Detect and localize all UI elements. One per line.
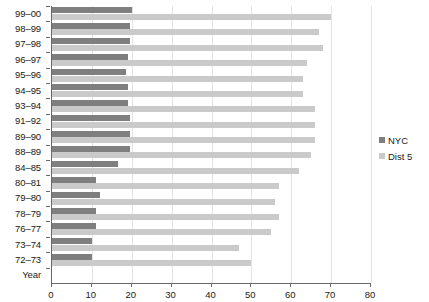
x-tick-50 <box>250 283 251 287</box>
y-tick-11 <box>46 175 50 176</box>
y-axis-label-73-74: 73–74 <box>15 239 41 250</box>
bar-dist5-91–92 <box>52 122 315 128</box>
legend-item-nyc: NYC <box>379 133 427 147</box>
y-tick-4 <box>46 68 50 69</box>
y-tick-17 <box>46 268 50 269</box>
x-tick-60 <box>290 283 291 287</box>
bar-nyc-94–95 <box>52 84 128 90</box>
y-axis-label-76-77: 76–77 <box>15 223 41 234</box>
y-tick-3 <box>46 52 50 53</box>
y-axis-label-89-90: 89–90 <box>15 131 41 142</box>
bar-nyc-78–79 <box>52 208 96 214</box>
x-tick-label-40: 40 <box>205 289 216 300</box>
y-axis-label-80-81: 80–81 <box>15 177 41 188</box>
bar-dist5-93–94 <box>52 106 315 112</box>
y-axis-label-84-85: 84–85 <box>15 162 41 173</box>
y-tick-14 <box>46 221 50 222</box>
x-tick-0 <box>51 283 52 287</box>
x-tick-label-80: 80 <box>365 289 376 300</box>
y-axis-label-98-99: 98–99 <box>15 23 41 34</box>
bar-dist5-88–89 <box>52 152 311 158</box>
y-tick-6 <box>46 98 50 99</box>
y-axis-label-97-98: 97–98 <box>15 38 41 49</box>
x-tick-20 <box>131 283 132 287</box>
bar-nyc-97–98 <box>52 38 130 44</box>
legend-label-dist5: Dist 5 <box>388 151 412 162</box>
bar-dist5-95–96 <box>52 76 303 82</box>
bar-dist5-98–99 <box>52 29 319 35</box>
bar-nyc-72–73 <box>52 254 92 260</box>
bar-nyc-79–80 <box>52 192 100 198</box>
bar-dist5-84–85 <box>52 168 299 174</box>
bar-nyc-73–74 <box>52 238 92 244</box>
y-axis-label-79-80: 79–80 <box>15 192 41 203</box>
y-axis-label-94-95: 94–95 <box>15 85 41 96</box>
bar-dist5-99–00 <box>52 14 331 20</box>
y-tick-5 <box>46 83 50 84</box>
x-tick-70 <box>330 283 331 287</box>
y-axis-label-99-00: 99–00 <box>15 8 41 19</box>
bar-dist5-89–90 <box>52 137 315 143</box>
y-axis-label-96-97: 96–97 <box>15 54 41 65</box>
bar-nyc-99–00 <box>52 7 132 13</box>
plot-area <box>51 6 371 283</box>
bar-dist5-72–73 <box>52 260 251 266</box>
y-tick-1 <box>46 21 50 22</box>
legend-label-nyc: NYC <box>388 135 408 146</box>
y-tick-2 <box>46 37 50 38</box>
y-tick-16 <box>46 252 50 253</box>
y-tick-13 <box>46 206 50 207</box>
y-axis-label-78-79: 78–79 <box>15 208 41 219</box>
x-tick-label-30: 30 <box>165 289 176 300</box>
bar-dist5-94–95 <box>52 91 303 97</box>
legend-swatch-nyc <box>379 137 385 143</box>
bar-nyc-76–77 <box>52 223 96 229</box>
y-tick-0 <box>46 6 50 7</box>
bar-nyc-96–97 <box>52 54 128 60</box>
chart-legend: NYC Dist 5 <box>379 133 427 165</box>
bar-dist5-79–80 <box>52 199 275 205</box>
y-tick-12 <box>46 191 50 192</box>
x-tick-label-10: 10 <box>86 289 97 300</box>
bar-nyc-91–92 <box>52 115 130 121</box>
y-axis-label-93-94: 93–94 <box>15 100 41 111</box>
x-tick-label-70: 70 <box>325 289 336 300</box>
bar-dist5-78–79 <box>52 214 279 220</box>
x-tick-40 <box>211 283 212 287</box>
y-axis-label-year: Year <box>22 269 41 280</box>
gridline-x-80 <box>371 6 372 283</box>
bar-dist5-73–74 <box>52 245 239 251</box>
bar-dist5-76–77 <box>52 229 271 235</box>
bar-dist5-80–81 <box>52 183 279 189</box>
bar-dist5-97–98 <box>52 45 323 51</box>
y-axis-label-88-89: 88–89 <box>15 146 41 157</box>
y-axis-label-95-96: 95–96 <box>15 69 41 80</box>
y-axis-label-72-73: 72–73 <box>15 254 41 265</box>
x-tick-80 <box>370 283 371 287</box>
bar-nyc-93–94 <box>52 100 128 106</box>
y-tick-9 <box>46 145 50 146</box>
legend-swatch-dist5 <box>379 153 385 159</box>
y-tick-8 <box>46 129 50 130</box>
x-tick-label-20: 20 <box>125 289 136 300</box>
y-tick-7 <box>46 114 50 115</box>
bar-chart: 99–0098–9997–9896–9795–9694–9593–9491–92… <box>0 0 429 302</box>
x-tick-10 <box>91 283 92 287</box>
bar-nyc-88–89 <box>52 146 130 152</box>
bar-dist5-96–97 <box>52 60 307 66</box>
y-axis-label-91-92: 91–92 <box>15 115 41 126</box>
y-tick-10 <box>46 160 50 161</box>
y-tick-15 <box>46 237 50 238</box>
x-tick-label-60: 60 <box>285 289 296 300</box>
legend-item-dist5: Dist 5 <box>379 149 427 163</box>
bar-nyc-95–96 <box>52 69 126 75</box>
gridline-x-70 <box>331 6 332 283</box>
bar-nyc-89–90 <box>52 131 130 137</box>
y-axis-labels: 99–0098–9997–9896–9795–9694–9593–9491–92… <box>0 6 45 289</box>
x-tick-label-0: 0 <box>48 289 53 300</box>
bar-nyc-80–81 <box>52 177 96 183</box>
bar-nyc-84–85 <box>52 161 118 167</box>
x-tick-label-50: 50 <box>245 289 256 300</box>
x-tick-30 <box>171 283 172 287</box>
bar-nyc-98–99 <box>52 23 130 29</box>
